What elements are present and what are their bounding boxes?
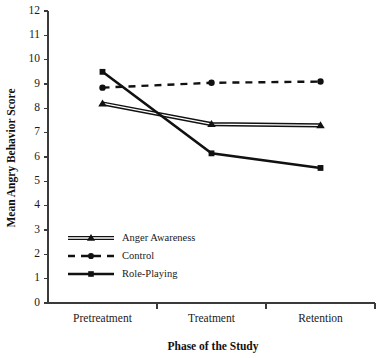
- y-tick-label: 12: [29, 4, 41, 16]
- square-marker: [100, 69, 106, 75]
- line-chart: 0123456789101112 PretreatmentTreatmentRe…: [0, 0, 387, 358]
- y-tick-label: 4: [34, 198, 40, 210]
- legend-item: Control: [68, 250, 154, 261]
- square-marker: [318, 165, 324, 171]
- y-tick-label: 11: [29, 28, 40, 40]
- square-marker: [88, 271, 94, 277]
- y-tick-label: 5: [34, 174, 40, 186]
- legend-label: Control: [122, 250, 154, 261]
- y-tick-label: 6: [34, 150, 40, 162]
- square-marker: [209, 150, 215, 156]
- y-axis-title: Mean Angry Behavior Score: [5, 88, 18, 227]
- chart-legend: Anger AwarenessControlRole-Playing: [68, 232, 195, 279]
- x-axis-title: Phase of the Study: [167, 340, 258, 353]
- y-tick-label: 8: [34, 101, 40, 113]
- y-tick-label: 0: [34, 296, 40, 308]
- legend-item: Role-Playing: [68, 268, 178, 279]
- series-control: [99, 78, 323, 91]
- y-tick-label: 3: [34, 223, 40, 235]
- circle-marker: [99, 84, 105, 90]
- y-tick-label: 9: [34, 77, 40, 89]
- y-tick-label: 10: [29, 52, 41, 64]
- series-layer: [98, 69, 325, 171]
- x-tick-label: Pretreatment: [73, 312, 133, 324]
- x-tick-label: Retention: [298, 312, 343, 324]
- legend-label: Anger Awareness: [122, 232, 195, 243]
- circle-marker: [88, 253, 94, 259]
- y-tick-label: 7: [34, 125, 40, 137]
- legend-label: Role-Playing: [122, 268, 178, 279]
- y-tick-label: 2: [34, 247, 40, 259]
- circle-marker: [317, 78, 323, 84]
- chart-canvas: 0123456789101112 PretreatmentTreatmentRe…: [0, 0, 387, 358]
- y-axis: 0123456789101112: [29, 4, 49, 308]
- x-tick-label: Treatment: [188, 312, 236, 324]
- x-axis: PretreatmentTreatmentRetention: [48, 303, 375, 324]
- y-tick-label: 1: [34, 271, 40, 283]
- legend-item: Anger Awareness: [68, 232, 195, 243]
- series-anger-awareness: [98, 99, 325, 128]
- circle-marker: [208, 80, 214, 86]
